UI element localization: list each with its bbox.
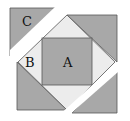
- label-a: A: [62, 55, 73, 70]
- quilt-diagram: C B A: [0, 0, 130, 121]
- label-b: B: [25, 55, 35, 70]
- label-c: C: [22, 14, 32, 29]
